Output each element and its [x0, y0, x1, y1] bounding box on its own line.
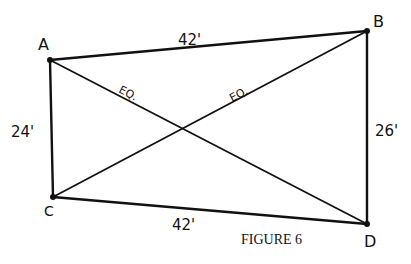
quadrilateral-diagram: A B C D 42' 24' 26' 42' EQ. EQ. FIGURE 6: [0, 0, 411, 264]
vertex-c-label: C: [44, 203, 54, 219]
side-ac: [50, 60, 53, 197]
vertex-b-dot: [364, 28, 370, 34]
vertex-d-label: D: [364, 232, 376, 251]
side-cd: [53, 197, 367, 224]
diagonal-ad-label: EQ.: [117, 83, 140, 103]
diagonal-ad: [50, 60, 367, 224]
vertex-b-label: B: [373, 12, 384, 31]
side-cd-label: 42': [172, 216, 195, 234]
vertex-c-dot: [50, 194, 56, 200]
side-ab-label: 42': [178, 31, 201, 49]
side-bd-label: 26': [375, 122, 398, 140]
vertex-a-dot: [47, 57, 53, 63]
side-ac-label: 24': [11, 123, 34, 141]
figure-caption: FIGURE 6: [241, 232, 302, 247]
diagonal-cb-label: EQ.: [227, 84, 250, 104]
vertex-a-label: A: [38, 35, 49, 54]
vertex-d-dot: [364, 221, 370, 227]
